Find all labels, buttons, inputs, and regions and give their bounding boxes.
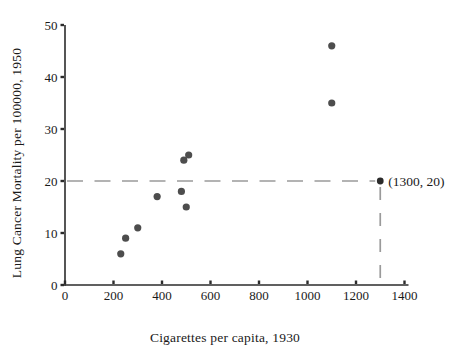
- data-point: [328, 99, 335, 106]
- data-point: [328, 42, 335, 49]
- y-axis-title: Lung Cancer Mortality per 100000, 1950: [9, 48, 25, 278]
- annotated-point: [377, 178, 384, 185]
- data-point: [185, 151, 192, 158]
- data-point: [183, 203, 190, 210]
- x-tick-label: 400: [152, 288, 172, 303]
- x-tick-label: 200: [104, 288, 124, 303]
- x-tick-label: 600: [201, 288, 221, 303]
- x-tick-label: 1200: [343, 288, 369, 303]
- scatter-plot: 020040060080010001200140001020304050(130…: [0, 0, 460, 359]
- y-tick-label: 30: [45, 122, 58, 137]
- x-tick-label: 800: [249, 288, 269, 303]
- data-point: [117, 250, 124, 257]
- y-tick-label: 20: [45, 174, 58, 189]
- figure: 020040060080010001200140001020304050(130…: [0, 0, 460, 359]
- y-tick-label: 50: [45, 18, 58, 33]
- x-tick-label: 1400: [392, 288, 418, 303]
- annotation-label: (1300, 20): [388, 174, 444, 189]
- data-point: [122, 235, 129, 242]
- data-point: [134, 224, 141, 231]
- y-tick-label: 40: [45, 70, 58, 85]
- y-tick-label: 0: [51, 278, 58, 293]
- x-axis-title: Cigarettes per capita, 1930: [55, 330, 395, 346]
- data-point: [154, 193, 161, 200]
- x-tick-label: 0: [62, 288, 69, 303]
- data-point: [178, 188, 185, 195]
- x-tick-label: 1000: [295, 288, 321, 303]
- y-tick-label: 10: [45, 226, 58, 241]
